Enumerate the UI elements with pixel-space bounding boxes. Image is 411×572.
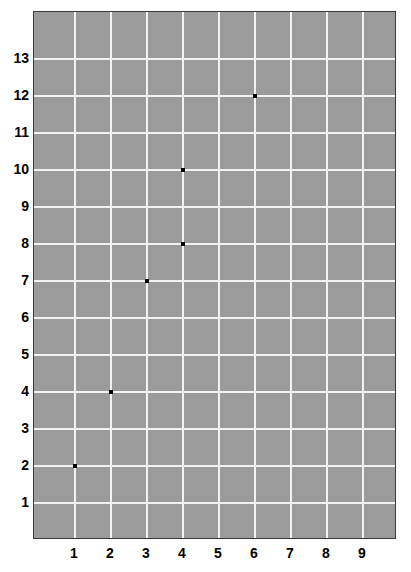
x-axis-tick-labels: 123456789 xyxy=(0,0,411,572)
scatter-plot-figure: 12345678910111213 123456789 xyxy=(0,0,411,572)
x-tick-label: 3 xyxy=(131,546,161,560)
x-tick-label: 6 xyxy=(239,546,269,560)
x-tick-label: 1 xyxy=(59,546,89,560)
x-tick-label: 7 xyxy=(275,546,305,560)
x-tick-label: 5 xyxy=(203,546,233,560)
x-tick-label: 4 xyxy=(167,546,197,560)
x-tick-label: 9 xyxy=(347,546,377,560)
x-tick-label: 2 xyxy=(95,546,125,560)
x-tick-label: 8 xyxy=(311,546,341,560)
